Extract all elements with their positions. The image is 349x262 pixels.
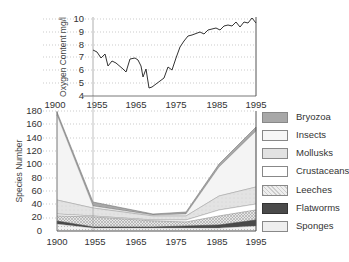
oxygen-gridlines: [43, 19, 256, 83]
legend-label: Crustaceans: [296, 165, 349, 176]
tick-label: 80: [31, 172, 42, 183]
tick-label: 120: [26, 145, 42, 156]
legend-item-insects: Insects: [262, 130, 346, 142]
legend-swatch: [262, 185, 288, 196]
tick-label: 1965: [125, 236, 146, 247]
tick-label: 20: [31, 211, 42, 222]
tick-label: 180: [26, 105, 42, 116]
legend-label: Bryozoa: [296, 111, 331, 122]
tick-label: 1975: [165, 99, 186, 110]
tick-label: 1955: [86, 99, 107, 110]
legend-item-leeches: Leeches: [262, 185, 346, 197]
species-y-ticks: 180 160 140 120 100 80 60 40 20 0: [26, 105, 42, 236]
legend-swatch: [262, 203, 288, 214]
legend-item-flatworms: Flatworms: [262, 203, 346, 215]
tick-label: 10: [73, 13, 84, 24]
tick-label: 8: [79, 39, 84, 50]
tick-label: 160: [26, 118, 42, 129]
legend-label: Leeches: [296, 184, 332, 195]
legend-item-crustaceans: Crustaceans: [262, 166, 346, 178]
tick-label: 1955: [84, 236, 105, 247]
tick-label: 7: [79, 51, 84, 62]
tick-label: 1985: [206, 236, 227, 247]
legend-swatch: [262, 112, 288, 123]
oxygen-y-axis-label: Oxygen Content mg/l: [58, 17, 68, 97]
tick-label: 1965: [125, 99, 146, 110]
legend-item-bryozoa: Bryozoa: [262, 112, 346, 124]
tick-label: 140: [26, 132, 42, 143]
tick-label: 1900: [46, 236, 67, 247]
tick-label: 5: [79, 77, 84, 88]
tick-label: 1900: [44, 99, 65, 110]
tick-label: 0: [37, 225, 42, 236]
tick-label: 40: [31, 198, 42, 209]
oxygen-y-ticks: 10 9 8 7 6 5 4: [73, 13, 84, 101]
legend-item-sponges: Sponges: [262, 221, 346, 233]
legend-item-mollusks: Mollusks: [262, 148, 346, 160]
tick-label: 4: [79, 90, 84, 101]
tick-label: 1995: [245, 99, 266, 110]
species-chart: 180 160 140 120 100 80 60 40 20 0 Specie…: [14, 96, 267, 247]
legend-label: Sponges: [296, 220, 334, 231]
tick-label: 1985: [206, 99, 227, 110]
tick-label: 9: [79, 26, 84, 37]
legend-swatch: [262, 148, 288, 159]
tick-label: 60: [31, 185, 42, 196]
legend-label: Insects: [296, 129, 326, 140]
tick-label: 6: [79, 64, 84, 75]
oxygen-x-ticks: 1955 1965 1975 1985 1995: [86, 99, 266, 110]
legend-swatch: [262, 221, 288, 232]
legend-swatch: [262, 166, 288, 177]
oxygen-line: [93, 18, 256, 88]
oxygen-chart: 10 9 8 7 6 5 4 Oxygen Content mg/l 1955 …: [43, 13, 267, 110]
tick-label: 100: [26, 158, 42, 169]
tick-label: 1995: [245, 236, 266, 247]
tick-label: 1975: [165, 236, 186, 247]
species-x-ticks: 1900 1955 1965 1975 1985 1995: [46, 236, 266, 247]
species-y-axis-label: Species Number: [14, 139, 24, 202]
legend-label: Flatworms: [296, 202, 340, 213]
legend-swatch: [262, 130, 288, 141]
legend-label: Mollusks: [296, 147, 333, 158]
